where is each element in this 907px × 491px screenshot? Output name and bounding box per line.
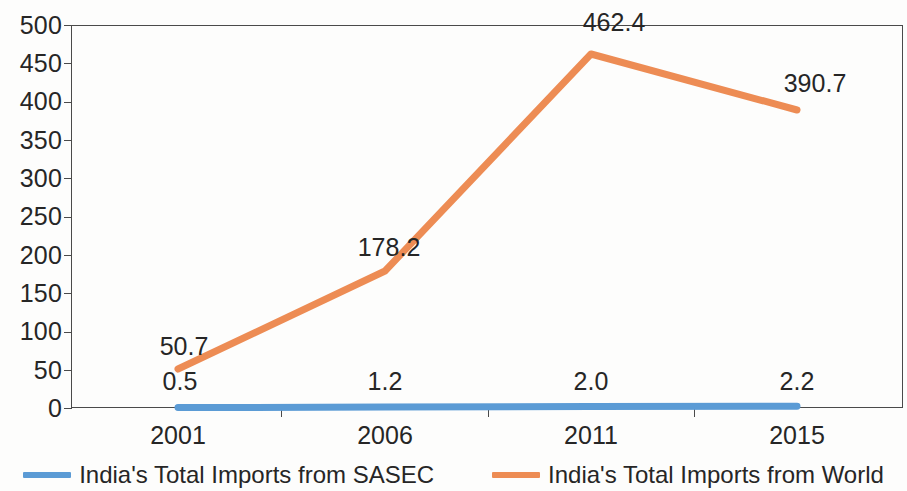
legend-swatch-world-icon [492,472,540,478]
data-label-world-2011: 462.4 [583,9,646,36]
data-label-sasec-2006: 1.2 [368,368,403,395]
legend-item-sasec[interactable]: India's Total Imports from SASEC [23,461,434,488]
series-plot [0,0,907,491]
legend-label-sasec: India's Total Imports from SASEC [79,461,434,488]
line-chart-figure: 500 450 400 350 300 250 200 150 100 50 0… [0,0,907,491]
series-line-world [178,54,797,369]
chart-legend: India's Total Imports from SASEC India's… [0,458,907,491]
data-label-sasec-2011: 2.0 [574,368,609,395]
data-label-sasec-2001: 0.5 [163,368,198,395]
data-label-world-2015: 390.7 [784,70,847,97]
legend-swatch-sasec-icon [23,472,71,478]
legend-item-world[interactable]: India's Total Imports from World [492,461,884,488]
legend-label-world: India's Total Imports from World [548,461,884,488]
data-label-world-2006: 178.2 [358,234,421,261]
data-label-sasec-2015: 2.2 [780,368,815,395]
series-line-sasec [178,406,797,407]
data-label-world-2001: 50.7 [160,333,209,360]
